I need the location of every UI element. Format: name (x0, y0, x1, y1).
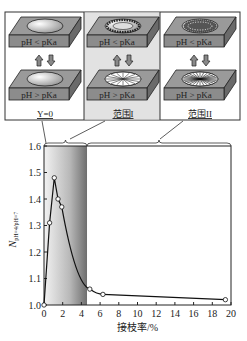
panel-caption: 范围I (113, 108, 134, 119)
x-tick-label: 0 (42, 308, 47, 319)
data-point-marker (60, 205, 64, 209)
y-tick-label: 1.0 (29, 300, 42, 311)
ph-label: pH < pKa (21, 37, 57, 47)
figure: pH < pKapH > pKaY=0pH < pKapH > pKa范围IpH… (0, 0, 247, 341)
ph-label: pH > pKa (176, 90, 212, 100)
pore-icon (27, 19, 63, 33)
leader-arrows (42, 121, 183, 143)
y-tick-label: 1.2 (29, 247, 42, 258)
ph-label: pH > pKa (21, 90, 57, 100)
arrow-up-icon (35, 55, 43, 66)
data-point-marker (52, 176, 56, 180)
arrow-up-icon (190, 55, 198, 66)
x-tick-label: 2 (60, 308, 65, 319)
panel-caption: Y=0 (37, 109, 54, 119)
x-tick-label: 10 (133, 308, 143, 319)
data-point-marker (223, 298, 227, 302)
x-tick-label: 14 (170, 308, 180, 319)
line-chart: 1.01.11.21.31.41.51.602468101214161820接枝… (7, 140, 236, 333)
data-point-marker (101, 292, 105, 296)
x-tick-label: 20 (226, 308, 236, 319)
data-point-marker (88, 287, 92, 291)
data-point-marker (56, 197, 60, 201)
x-tick-label: 6 (98, 308, 103, 319)
ph-label: pH < pKa (176, 37, 212, 47)
panel-y0: pH < pKapH > pKaY=0 (9, 17, 81, 119)
data-point-marker (47, 221, 51, 225)
x-tick-label: 18 (207, 308, 217, 319)
data-point-marker (42, 303, 46, 307)
region-braces (44, 140, 231, 146)
y-tick-label: 1.4 (29, 194, 42, 205)
arrow-down-icon (47, 55, 55, 66)
pore-icon (27, 72, 63, 86)
arrow-down-icon (202, 55, 210, 66)
panel-range2: pH < pKapH > pKa范围II (164, 17, 236, 119)
x-tick-label: 8 (116, 308, 121, 319)
panel-caption: 范围II (188, 108, 212, 119)
x-tick-label: 12 (151, 308, 161, 319)
ph-label: pH < pKa (99, 37, 135, 47)
y-tick-label: 1.5 (29, 167, 42, 178)
x-tick-label: 4 (79, 308, 84, 319)
y-tick-label: 1.6 (29, 141, 42, 152)
schematic-panels: pH < pKapH > pKaY=0pH < pKapH > pKa范围IpH… (5, 12, 240, 120)
x-tick-label: 16 (189, 308, 199, 319)
y-tick-label: 1.1 (29, 273, 42, 284)
y-tick-label: 1.3 (29, 220, 42, 231)
y-axis-label: NpH=4/pH=7 (7, 212, 19, 249)
ph-label: pH > pKa (99, 90, 135, 100)
x-axis-label: 接枝率/% (117, 321, 158, 333)
